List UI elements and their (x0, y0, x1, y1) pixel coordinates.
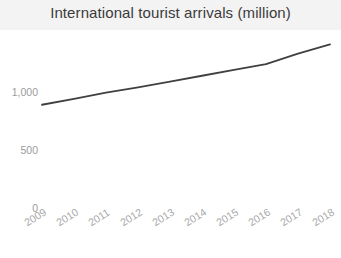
x-tick-label-2016: 2016 (246, 206, 272, 229)
x-tick-label-2013: 2013 (150, 206, 176, 229)
x-axis: 2009 2010 2011 2012 2013 2014 2015 2016 … (0, 208, 341, 258)
data-line-international-tourist-arrivals (42, 44, 330, 104)
y-axis: 1,000 500 0 (0, 30, 38, 215)
x-tick-label-2009: 2009 (22, 206, 48, 229)
x-tick-label-2012: 2012 (118, 206, 144, 229)
x-tick-label-2018: 2018 (310, 206, 336, 229)
y-tick-label-500: 500 (0, 144, 38, 156)
x-tick-label-2015: 2015 (214, 206, 240, 229)
x-tick-label-2011: 2011 (86, 206, 112, 228)
chart-container: International tourist arrivals (million)… (0, 0, 341, 258)
y-tick-label-1000: 1,000 (0, 86, 38, 98)
chart-title: International tourist arrivals (million) (0, 4, 341, 21)
x-tick-label-2017: 2017 (278, 206, 304, 229)
x-tick-label-2014: 2014 (182, 206, 208, 229)
x-tick-label-2010: 2010 (54, 206, 80, 229)
